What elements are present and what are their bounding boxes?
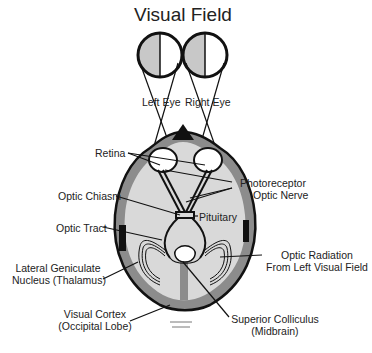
label-visual-cortex-line1: Visual Cortex [55, 308, 135, 320]
label-optic-radiation: Optic Radiation From Left Visual Field [262, 249, 372, 273]
label-optic-nerve: Optic Nerve [253, 189, 308, 201]
label-optic-radiation-line2: From Left Visual Field [262, 261, 372, 273]
label-sc-line1: Superior Colliculus [225, 313, 325, 325]
right-eye-visual-field [183, 33, 227, 77]
label-sc-line2: (Midbrain) [225, 325, 325, 337]
label-lgn-line1: Lateral Geniculate [12, 262, 104, 274]
label-visual-cortex: Visual Cortex (Occipital Lobe) [55, 308, 135, 332]
label-pituitary: Pituitary [199, 211, 237, 223]
label-photoreceptor: Photoreceptor [240, 177, 306, 189]
label-visual-cortex-line2: (Occipital Lobe) [55, 320, 135, 332]
label-optic-tract: Optic Tract [56, 222, 107, 234]
label-retina: Retina [95, 147, 125, 159]
label-lgn-line2: Nucleus (Thalamus) [12, 274, 104, 286]
diagram-title: Visual Field [0, 4, 366, 26]
artist-signature [170, 322, 192, 327]
label-optic-chiasm: Optic Chiasm [58, 190, 121, 202]
label-superior-colliculus: Superior Colliculus (Midbrain) [225, 313, 325, 337]
label-lateral-geniculate: Lateral Geniculate Nucleus (Thalamus) [12, 262, 104, 286]
label-optic-radiation-line1: Optic Radiation [262, 249, 372, 261]
label-left-eye: Left Eye [142, 96, 181, 108]
label-right-eye: Right Eye [185, 96, 231, 108]
